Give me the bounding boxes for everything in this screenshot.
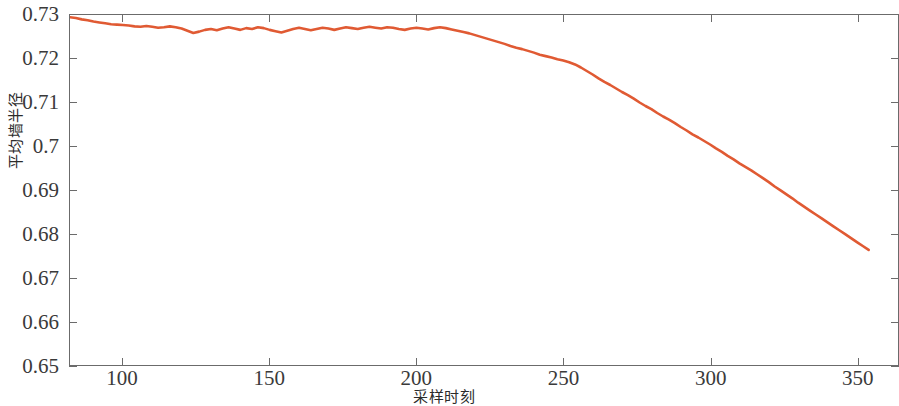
y-tick-label: 0.72 — [0, 48, 59, 69]
x-tick-mark-top — [711, 14, 712, 22]
y-tick-mark — [69, 102, 77, 103]
x-tick-mark — [269, 358, 270, 366]
x-tick-mark — [416, 358, 417, 366]
y-tick-mark — [69, 190, 77, 191]
plot-area — [69, 14, 899, 366]
y-axis-title: 平均墙半径 — [4, 71, 25, 191]
y-tick-mark-right — [891, 102, 899, 103]
y-tick-mark — [69, 58, 77, 59]
y-tick-mark-right — [891, 234, 899, 235]
y-tick-mark-right — [891, 322, 899, 323]
y-tick-mark — [69, 366, 77, 367]
y-tick-mark — [69, 146, 77, 147]
y-tick-label: 0.65 — [0, 356, 59, 377]
y-tick-mark — [69, 278, 77, 279]
x-axis-title: 采样时刻 — [0, 385, 888, 406]
y-tick-mark — [69, 14, 77, 15]
line-series-svg — [70, 15, 898, 365]
x-tick-mark — [711, 358, 712, 366]
y-tick-mark-right — [891, 278, 899, 279]
y-tick-mark-right — [891, 146, 899, 147]
x-tick-mark-top — [563, 14, 564, 22]
y-tick-label: 0.68 — [0, 224, 59, 245]
x-tick-mark-top — [858, 14, 859, 22]
x-tick-mark — [122, 358, 123, 366]
x-tick-mark-top — [416, 14, 417, 22]
y-tick-label: 0.73 — [0, 4, 59, 25]
line-series-path — [70, 17, 869, 250]
x-tick-mark-top — [122, 14, 123, 22]
y-tick-mark — [69, 234, 77, 235]
y-tick-mark-right — [891, 366, 899, 367]
x-tick-mark-top — [269, 14, 270, 22]
y-tick-label: 0.67 — [0, 268, 59, 289]
x-tick-mark — [858, 358, 859, 366]
x-tick-mark — [563, 358, 564, 366]
y-tick-mark — [69, 322, 77, 323]
y-tick-mark-right — [891, 58, 899, 59]
y-tick-mark-right — [891, 190, 899, 191]
y-tick-mark-right — [891, 14, 899, 15]
y-tick-label: 0.66 — [0, 312, 59, 333]
